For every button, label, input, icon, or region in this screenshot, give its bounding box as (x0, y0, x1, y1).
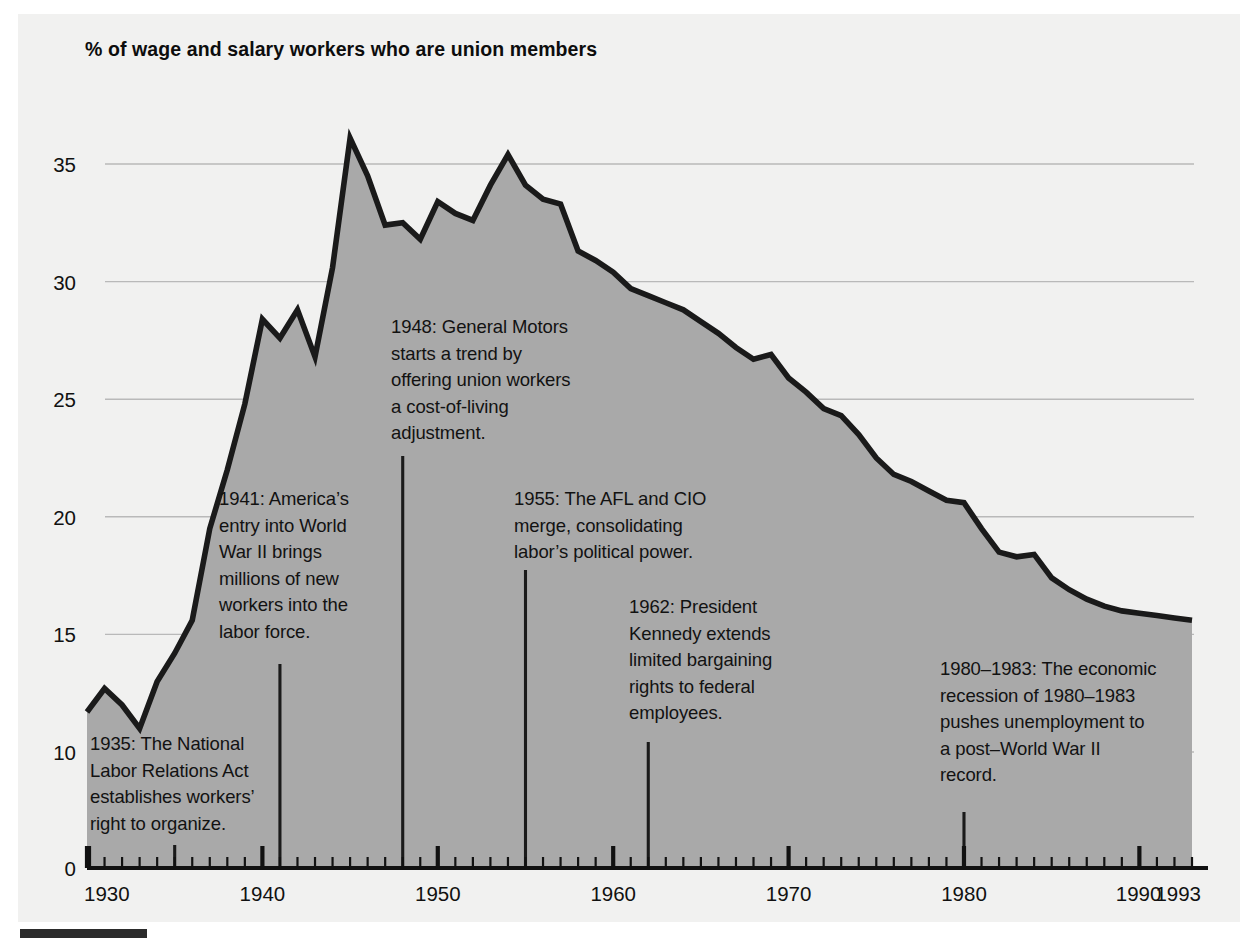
y-tick-label: 35 (53, 153, 76, 176)
decorative-bottom-rule (20, 929, 147, 938)
x-tick-label: 1993 (1155, 882, 1201, 905)
x-tick-label: 1930 (84, 882, 130, 905)
x-tick-label: 1960 (590, 882, 636, 905)
y-tick-label: 15 (53, 623, 76, 646)
x-tick-label: 1940 (240, 882, 286, 905)
y-tick-label: 30 (53, 271, 76, 294)
ann-1980: 1980–1983: The economic recession of 198… (940, 656, 1156, 789)
x-tick-label: 1980 (941, 882, 987, 905)
figure: % of wage and salary workers who are uni… (0, 0, 1253, 949)
ann-1955: 1955: The AFL and CIO merge, consolidati… (514, 486, 706, 566)
x-tick-label: 1950 (415, 882, 461, 905)
ann-1935: 1935: The National Labor Relations Act e… (90, 731, 255, 837)
y-tick-label: 0 (65, 857, 76, 880)
ann-1962: 1962: President Kennedy extends limited … (629, 594, 772, 727)
ann-1941: 1941: America’s entry into World War II … (219, 486, 349, 645)
x-axis-tick-labels: 19301940195019601970198019901993 (84, 882, 1201, 905)
y-tick-label: 25 (53, 388, 76, 411)
y-axis-tick-labels: 0101520253035 (53, 153, 76, 880)
x-tick-label: 1970 (766, 882, 812, 905)
ann-1948: 1948: General Motors starts a trend by o… (391, 314, 570, 447)
y-tick-label: 20 (53, 506, 76, 529)
y-tick-label: 10 (53, 741, 76, 764)
